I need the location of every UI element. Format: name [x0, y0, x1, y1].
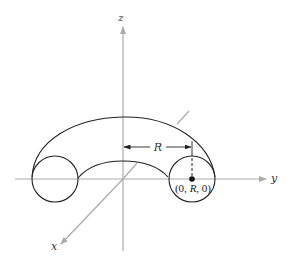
y-axis-label: y [270, 172, 278, 185]
dimension-label: R [153, 141, 162, 154]
radius-dimension: R [124, 141, 192, 178]
x-axis [61, 179, 123, 244]
x-axis-label: x [51, 240, 58, 253]
center-point [189, 176, 195, 182]
z-axis-label: z [117, 12, 124, 23]
x-axis-back [177, 111, 189, 124]
x-axis-inner [123, 163, 137, 179]
torus-figure: R (0, R, 0) z y x [0, 0, 289, 262]
center-point-label: (0, R, 0) [175, 182, 211, 195]
